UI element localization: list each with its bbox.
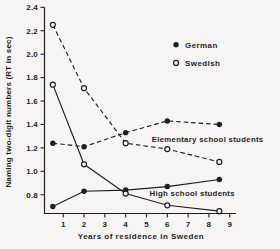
x-tick-label: 6	[165, 220, 170, 229]
data-point-filled-circle	[50, 141, 55, 146]
data-point-open-circle	[217, 209, 222, 214]
data-point-open-circle	[123, 191, 128, 196]
annotation-label: High school students	[150, 189, 236, 198]
data-point-filled-circle	[81, 144, 86, 149]
data-point-filled-circle	[165, 118, 170, 123]
x-tick-label: 4	[123, 220, 128, 229]
x-tick-label: 8	[207, 220, 212, 229]
data-point-open-circle	[50, 22, 55, 27]
data-point-filled-circle	[123, 130, 128, 135]
data-point-open-circle	[82, 162, 87, 167]
data-point-open-circle	[165, 203, 170, 208]
y-tick-label: 1.4	[26, 120, 38, 129]
x-tick-label: 9	[227, 220, 232, 229]
chart-annotations: Elementary school studentsHigh school st…	[150, 135, 264, 198]
data-point-filled-circle	[217, 177, 222, 182]
data-point-open-circle	[174, 60, 179, 65]
chart-svg: 0.81.01.21.41.61.82.02.22.4123456789 Ger…	[0, 0, 280, 249]
data-point-open-circle	[50, 82, 55, 87]
data-point-filled-circle	[50, 204, 55, 209]
data-point-filled-circle	[81, 189, 86, 194]
y-tick-label: 0.8	[26, 191, 38, 200]
chart-legend: GermanSwedish	[173, 41, 220, 68]
chart-series	[50, 22, 222, 213]
x-tick-label: 2	[82, 220, 87, 229]
x-tick-label: 7	[186, 220, 191, 229]
legend-label: Swedish	[185, 59, 220, 68]
x-tick-label: 1	[61, 220, 66, 229]
axis-spines	[45, 7, 237, 213]
legend-label: German	[185, 41, 218, 50]
y-tick-label: 2.2	[26, 27, 38, 36]
data-point-filled-circle	[217, 122, 222, 127]
y-tick-label: 1.6	[26, 97, 38, 106]
annotation-label: Elementary school students	[152, 135, 264, 144]
x-axis-title: Years of residence in Sweden	[78, 232, 205, 241]
data-point-filled-circle	[173, 42, 178, 47]
y-tick-label: 1.8	[26, 73, 38, 82]
y-tick-label: 1.0	[26, 167, 38, 176]
data-point-open-circle	[217, 159, 222, 164]
y-axis-title: Naming two-digit numbers (RT in sec)	[4, 36, 13, 187]
y-tick-label: 1.2	[26, 144, 38, 153]
data-point-open-circle	[82, 86, 87, 91]
y-tick-label: 2.4	[26, 3, 38, 12]
data-point-open-circle	[123, 141, 128, 146]
figure: 0.81.01.21.41.61.82.02.22.4123456789 Ger…	[0, 0, 280, 249]
x-tick-label: 3	[103, 220, 108, 229]
y-tick-label: 2.0	[26, 50, 38, 59]
x-tick-label: 5	[144, 220, 149, 229]
data-point-open-circle	[165, 147, 170, 152]
